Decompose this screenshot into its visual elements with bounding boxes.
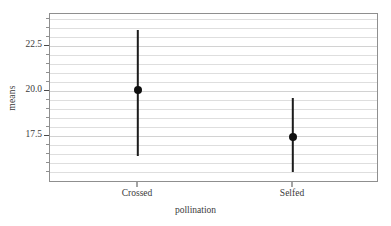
x-axis-title: pollination: [0, 205, 391, 215]
x-axis-tick: [137, 182, 138, 187]
y-axis-tick-minor: [46, 117, 49, 118]
y-axis-tick-minor: [46, 171, 49, 172]
y-axis-tick-label: 20.0: [25, 85, 42, 95]
y-axis-tick-major: [44, 90, 49, 91]
x-axis-tick-label: Selfed: [280, 189, 304, 199]
gridline: [50, 55, 377, 56]
y-axis-title: means: [0, 0, 24, 196]
gridline: [50, 136, 377, 137]
y-axis-tick-major: [44, 45, 49, 46]
y-axis-tick-minor: [46, 81, 49, 82]
y-axis-tick-minor: [46, 153, 49, 154]
gridline: [50, 28, 377, 29]
gridline: [50, 145, 377, 146]
gridline: [50, 127, 377, 128]
gridline: [50, 154, 377, 155]
gridline: [50, 73, 377, 74]
gridline: [50, 82, 377, 83]
y-axis-tick-minor: [46, 18, 49, 19]
y-axis-tick-major: [44, 135, 49, 136]
y-axis-tick-minor: [46, 27, 49, 28]
y-axis-tick-minor: [46, 108, 49, 109]
y-axis-tick-minor: [46, 63, 49, 64]
y-axis-tick-minor: [46, 162, 49, 163]
y-axis-title-label: means: [7, 85, 17, 110]
gridline: [50, 19, 377, 20]
gridline: [50, 118, 377, 119]
gridline: [50, 100, 377, 101]
gridline: [50, 91, 377, 92]
y-axis-tick-minor: [46, 36, 49, 37]
y-axis-tick-label: 17.5: [25, 130, 42, 140]
x-axis-tick-label: Crossed: [122, 189, 153, 199]
gridline: [50, 172, 377, 173]
x-axis-title-label: pollination: [175, 205, 216, 215]
gridline: [50, 163, 377, 164]
y-axis-tick-label: 22.5: [25, 40, 42, 50]
x-axis-tick: [292, 182, 293, 187]
gridline: [50, 109, 377, 110]
data-point-marker: [289, 133, 297, 141]
gridline: [50, 64, 377, 65]
error-bar-chart: means 22.520.017.5 CrossedSelfed pollina…: [0, 0, 391, 226]
y-axis-tick-minor: [46, 72, 49, 73]
y-axis-tick-minor: [46, 54, 49, 55]
y-axis-tick-minor: [46, 99, 49, 100]
gridline: [50, 37, 377, 38]
plot-area: [49, 13, 378, 182]
y-axis-tick-minor: [46, 144, 49, 145]
data-point-marker: [134, 86, 142, 94]
y-axis-tick-minor: [46, 126, 49, 127]
gridline: [50, 46, 377, 47]
